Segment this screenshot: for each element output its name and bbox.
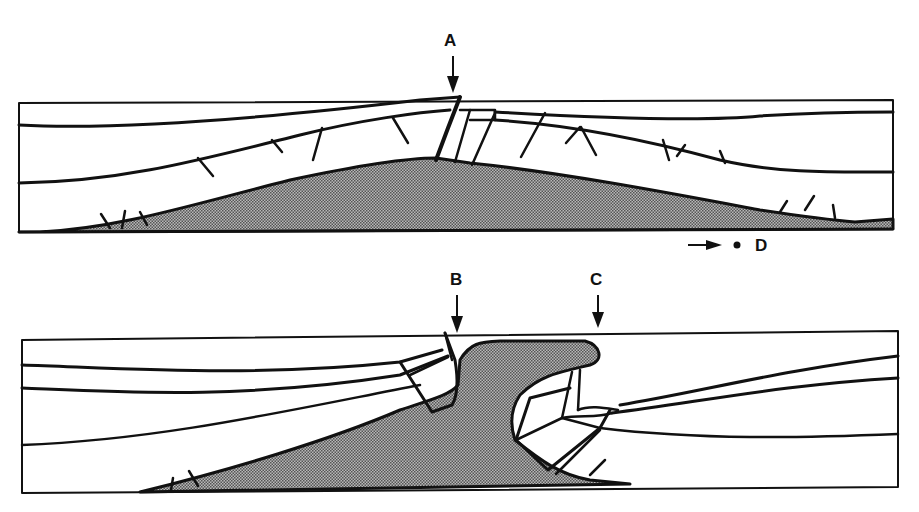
lower-panel [22, 331, 898, 493]
arrow-b-icon [451, 295, 463, 333]
arrow-a-icon [447, 56, 459, 93]
label-a: A [444, 31, 456, 51]
cross-section-diagram [0, 0, 919, 512]
label-c: C [590, 270, 602, 290]
upper-panel [19, 97, 893, 232]
label-b: B [450, 270, 462, 290]
arrow-c-icon [592, 295, 604, 328]
label-d: D [755, 236, 767, 256]
point-d-icon [734, 242, 741, 249]
arrow-d-icon [688, 240, 741, 250]
